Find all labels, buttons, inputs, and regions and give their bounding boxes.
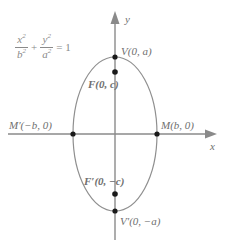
equation-x-den-exponent: 2 bbox=[23, 47, 27, 55]
equation-term-y: y2 a2 bbox=[40, 34, 53, 60]
ellipse-equation: x2 b2 + y2 a2 = 1 bbox=[14, 34, 73, 60]
equation-x-numerator: x2 bbox=[15, 34, 27, 47]
equation-term-x: x2 b2 bbox=[15, 34, 28, 60]
equation-y-denominator: a2 bbox=[40, 47, 53, 61]
equation-y-num-exponent: 2 bbox=[47, 32, 51, 40]
y-axis-arrowhead-icon bbox=[111, 11, 120, 24]
point-co-vertex-left bbox=[70, 131, 75, 136]
x-axis-label: x bbox=[210, 141, 215, 152]
label-vertex-top: V(0, a) bbox=[121, 46, 152, 57]
label-vertex-bottom: V′(0, −a) bbox=[120, 216, 160, 227]
equation-y-den-exponent: 2 bbox=[48, 47, 52, 55]
equation-x-num-exponent: 2 bbox=[22, 32, 26, 40]
equation-equals-one: = 1 bbox=[56, 41, 70, 53]
equation-plus-operator: + bbox=[31, 41, 37, 53]
label-co-vertex-left: M′(−b, 0) bbox=[9, 120, 52, 131]
point-vertex-top bbox=[112, 54, 117, 59]
equation-x-denominator: b2 bbox=[15, 47, 28, 61]
label-focus-top: F(0, c) bbox=[88, 79, 119, 90]
x-axis-arrowhead-icon bbox=[205, 130, 217, 139]
point-co-vertex-right bbox=[154, 131, 159, 136]
point-focus-bottom bbox=[112, 191, 118, 197]
ellipse-figure: x2 b2 + y2 a2 = 1 y x V(0, a) F(0, c) M′… bbox=[0, 0, 227, 248]
equation-y-numerator: y2 bbox=[41, 34, 53, 47]
y-axis-label: y bbox=[125, 14, 130, 25]
point-focus-top bbox=[112, 69, 118, 75]
label-focus-bottom: F′(0, −c) bbox=[84, 176, 124, 187]
point-vertex-bottom bbox=[112, 208, 117, 213]
label-co-vertex-right: M(b, 0) bbox=[161, 120, 194, 131]
